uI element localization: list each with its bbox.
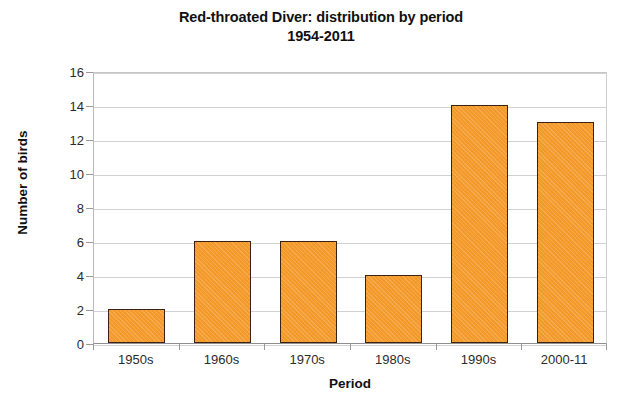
y-axis-tick-mark	[86, 242, 93, 243]
x-axis-tick-label: 1970s	[264, 352, 350, 368]
x-axis-tick-mark	[521, 344, 522, 350]
x-axis-tick-label: 1990s	[436, 352, 522, 368]
y-axis-tick-mark	[86, 310, 93, 311]
chart-title-line-2: 1954-2011	[0, 27, 642, 46]
x-axis-tick-label: 1950s	[93, 352, 179, 368]
bar	[194, 241, 251, 343]
x-axis-tick-mark	[264, 344, 265, 350]
gridline	[94, 277, 606, 278]
x-axis-tick-mark	[606, 344, 607, 350]
y-axis-tick-label: 6	[44, 236, 84, 249]
x-axis-title: Period	[93, 376, 607, 391]
chart-title: Red-throated Diver: distribution by peri…	[0, 8, 642, 46]
y-axis-tick-label: 4	[44, 270, 84, 283]
gridline	[94, 311, 606, 312]
y-axis-tick-mark	[86, 344, 93, 345]
x-axis-tick-mark	[350, 344, 351, 350]
x-axis-tick-label: 1960s	[179, 352, 265, 368]
gridline	[94, 175, 606, 176]
bar	[108, 309, 165, 343]
x-axis-tick-label: 1980s	[350, 352, 436, 368]
gridline	[94, 209, 606, 210]
y-axis-tick-label: 2	[44, 304, 84, 317]
y-axis-tick-label: 14	[44, 100, 84, 113]
bar	[537, 122, 594, 343]
bar	[280, 241, 337, 343]
y-axis-tick-mark	[86, 174, 93, 175]
gridline	[94, 73, 606, 74]
x-axis-tick-marks	[93, 344, 607, 352]
gridline	[94, 107, 606, 108]
plot-area	[93, 72, 607, 344]
x-axis-tick-mark	[179, 344, 180, 350]
y-axis-tick-mark	[86, 208, 93, 209]
y-axis-tick-label: 0	[44, 338, 84, 351]
y-axis-tick-mark	[86, 72, 93, 73]
x-axis-tick-labels: 1950s1960s1970s1980s1990s2000-11	[93, 352, 607, 372]
gridline	[94, 243, 606, 244]
bar-chart-figure: Red-throated Diver: distribution by peri…	[0, 0, 642, 413]
y-axis-tick-labels: 1614121086420	[38, 72, 84, 344]
bar	[365, 275, 422, 343]
y-axis-title: Number of birds	[15, 73, 30, 293]
x-axis-tick-mark	[93, 344, 94, 350]
y-axis-tick-mark	[86, 140, 93, 141]
y-axis-tick-label: 16	[44, 66, 84, 79]
x-axis-tick-mark	[436, 344, 437, 350]
x-axis-tick-label: 2000-11	[521, 352, 607, 368]
bar	[451, 105, 508, 343]
y-axis-tick-label: 10	[44, 168, 84, 181]
gridline	[94, 141, 606, 142]
y-axis-tick-mark	[86, 106, 93, 107]
y-axis-tick-mark	[86, 276, 93, 277]
y-axis-tick-label: 8	[44, 202, 84, 215]
chart-title-line-1: Red-throated Diver: distribution by peri…	[179, 9, 463, 25]
y-axis-tick-label: 12	[44, 134, 84, 147]
